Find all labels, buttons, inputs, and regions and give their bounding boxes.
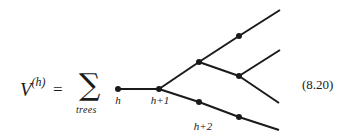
tree-edge — [199, 36, 239, 62]
tree-edge — [239, 117, 279, 130]
tree-diagram: hh+1h+2 — [0, 0, 356, 140]
tree-edge — [239, 10, 280, 36]
tree-node — [156, 86, 162, 92]
node-label: h — [115, 94, 121, 106]
tree-node — [115, 86, 121, 92]
tree-node — [236, 73, 242, 79]
tree-node — [236, 114, 242, 120]
tree-edge — [159, 62, 199, 89]
tree-edge — [239, 50, 280, 76]
tree-node — [236, 33, 242, 39]
tree-edge — [239, 76, 279, 103]
tree-node — [196, 99, 202, 105]
node-label: h+1 — [151, 94, 169, 106]
node-label: h+2 — [194, 120, 213, 132]
tree-node — [196, 59, 202, 65]
tree-edge — [199, 62, 239, 76]
tree-edge — [199, 102, 239, 117]
